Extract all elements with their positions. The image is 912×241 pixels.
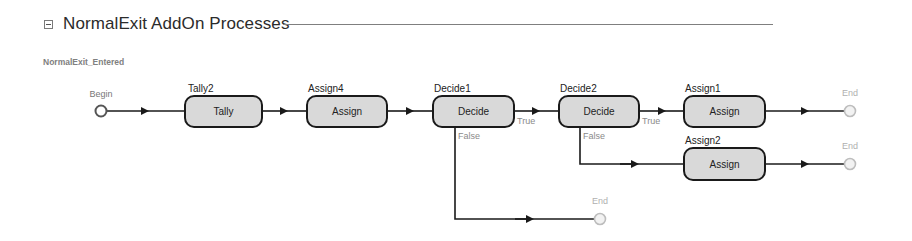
end-label: End [842,141,858,151]
node-name: Decide2 [560,83,597,94]
node-name: Tally2 [188,83,214,94]
process-flow-diagram: Begin Tally2 Tally Assign4 Assign Decide… [0,0,912,241]
node-decide2[interactable]: Decide2 Decide True False [559,83,660,141]
node-name: Assign4 [308,83,344,94]
node-assign2[interactable]: Assign2 Assign [684,135,765,180]
branch-false-label: False [458,131,480,141]
begin-label: Begin [89,89,112,99]
end-circle-icon [845,159,856,170]
end-node-1[interactable]: End [842,88,858,117]
end-circle-icon [595,214,606,225]
node-type: Decide [583,106,615,117]
end-circle-icon [845,106,856,117]
node-type: Decide [458,106,490,117]
branch-false-label: False [583,131,605,141]
node-type: Tally [213,106,233,117]
node-name: Decide1 [434,83,471,94]
begin-circle-icon [96,106,107,117]
node-type: Assign [709,106,739,117]
branch-true-label: True [517,116,535,126]
node-tally2[interactable]: Tally2 Tally [185,83,262,127]
branch-true-label: True [642,116,660,126]
node-type: Assign [709,159,739,170]
node-type: Assign [332,106,362,117]
begin-node[interactable]: Begin [89,89,112,117]
node-assign1[interactable]: Assign1 Assign [684,83,765,127]
node-assign4[interactable]: Assign4 Assign [307,83,387,127]
node-name: Assign2 [685,135,721,146]
end-label: End [842,88,858,98]
end-node-3[interactable]: End [592,196,608,225]
end-label: End [592,196,608,206]
end-node-2[interactable]: End [842,141,858,170]
node-name: Assign1 [685,83,721,94]
node-decide1[interactable]: Decide1 Decide True False [433,83,535,141]
